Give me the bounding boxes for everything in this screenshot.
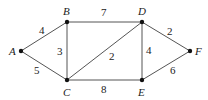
node-label-F: F xyxy=(194,45,202,57)
node-D xyxy=(140,20,144,24)
edge-CD xyxy=(67,22,142,80)
edge-weight-EF: 6 xyxy=(170,64,176,76)
edge-weight-BC: 3 xyxy=(57,45,63,57)
node-F xyxy=(188,49,192,53)
edge-weight-AB: 4 xyxy=(39,24,45,36)
edge-weight-DE: 4 xyxy=(146,44,152,56)
node-A xyxy=(19,49,23,53)
weighted-graph: 453728426ABCDEF xyxy=(0,0,208,100)
edge-weight-CD: 2 xyxy=(109,50,115,62)
edge-weight-BD: 7 xyxy=(101,6,107,18)
node-B xyxy=(65,20,69,24)
node-C xyxy=(65,78,69,82)
node-label-B: B xyxy=(63,5,70,17)
node-E xyxy=(140,78,144,82)
node-label-D: D xyxy=(137,5,146,17)
node-label-E: E xyxy=(137,86,145,98)
edge-weight-CE: 8 xyxy=(101,83,107,95)
node-label-C: C xyxy=(63,86,71,98)
edge-weight-AC: 5 xyxy=(34,64,40,76)
node-label-A: A xyxy=(8,45,16,57)
edge-weight-DF: 2 xyxy=(167,25,173,37)
